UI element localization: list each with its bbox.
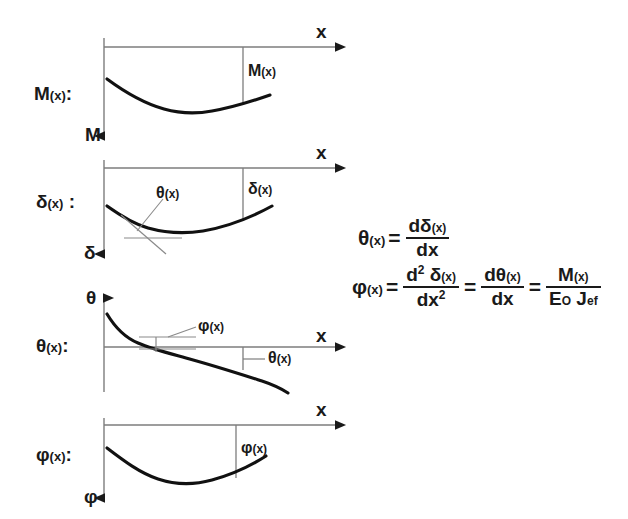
plot-rotation-y-axis-label: θ (86, 288, 96, 307)
plot-curvature (104, 418, 336, 498)
plot-curvature-x-axis-label: x (316, 400, 327, 419)
plot-curvature-y-axis-label: φ (84, 487, 98, 506)
plot-deflection-y-axis-label: δ (84, 243, 96, 262)
plot-curvature-ordinate-label: φ(x) (241, 440, 267, 456)
phi-equation-equals-1: = (386, 275, 398, 299)
phi-equation-numerator-3: M(x) (555, 265, 592, 286)
plot-moment-y-axis-label: M (85, 125, 101, 144)
plot-rotation-slope-leader (168, 327, 196, 337)
plot-deflection-ordinate-label: δ(x) (248, 181, 272, 197)
theta-equation-fraction: dδ(x) dx (406, 216, 450, 260)
plot-curvature-row-label: φ(x): (36, 445, 72, 464)
phi-equation-equals-2: = (464, 275, 476, 299)
phi-equation-equals-3: = (529, 275, 541, 299)
plot-rotation-ordinate-label: θ(x) (268, 350, 291, 366)
phi-equation-numerator-1: d2 δ(x) (403, 264, 459, 286)
phi-equation-denominator-2: dx (481, 286, 524, 309)
diagram-page: M(x): x M M(x) δ(x) : x δ δ(x) θ(x) θ(x)… (0, 0, 628, 519)
theta-equation-equals: = (388, 226, 400, 250)
phi-equation-fraction-1: d2 δ(x) dx2 (403, 264, 459, 311)
plot-rotation-row-label: θ(x): (36, 336, 69, 355)
plot-deflection-tangent-line (121, 215, 166, 254)
plot-deflection-tangent-leader (137, 199, 163, 231)
plot-rotation-x-axis-label: x (316, 326, 327, 345)
plot-moment (104, 38, 336, 136)
phi-equation-numerator-2: dθ(x) (481, 265, 524, 286)
plot-rotation-slope-label: φ(x) (198, 318, 224, 334)
plot-rotation (104, 298, 336, 393)
theta-equation-lhs: θ(x) (358, 226, 385, 250)
plot-deflection (104, 160, 336, 254)
plot-deflection-tangent-label: θ(x) (156, 185, 179, 201)
phi-equation-denominator-3: EO Jef (546, 286, 601, 309)
plot-moment-ordinate-label: M(x) (248, 63, 276, 79)
formula-block: θ(x) = dδ(x) dx φ(x) = d2 δ(x) dx2 (352, 216, 620, 320)
phi-equation-fraction-2: dθ(x) dx (481, 265, 524, 309)
phi-equation-lhs: φ(x) (352, 275, 383, 299)
phi-equation: φ(x) = d2 δ(x) dx2 = dθ(x) dx = (352, 264, 603, 311)
theta-equation-numerator: dδ(x) (406, 216, 450, 237)
plot-deflection-curve (107, 206, 272, 233)
theta-equation-denominator: dx (406, 237, 450, 260)
plot-deflection-row-label: δ(x) : (36, 192, 75, 211)
plot-moment-curve (107, 79, 270, 113)
theta-equation: θ(x) = dδ(x) dx (358, 216, 451, 260)
plot-moment-x-axis-label: x (316, 22, 327, 41)
plot-moment-row-label: M(x): (34, 84, 72, 103)
phi-equation-denominator-1: dx2 (403, 286, 459, 310)
plot-deflection-x-axis-label: x (316, 143, 327, 162)
phi-equation-fraction-3: M(x) EO Jef (546, 265, 601, 309)
